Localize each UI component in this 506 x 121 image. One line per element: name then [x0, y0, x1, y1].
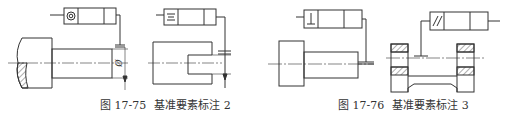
tolerance-frame [430, 12, 488, 30]
fig-17-76-shaft [268, 10, 374, 86]
fig-17-75-block [148, 9, 231, 88]
figure-title: 基准要素标注 2 [154, 99, 231, 112]
concentricity-icon [67, 12, 75, 20]
caption-fig-17-75: 图 17-75基准要素标注 2 [100, 96, 239, 112]
perpendicularity-icon [307, 13, 315, 24]
symmetry-icon [167, 14, 175, 20]
caption-fig-17-76: 图 17-76基准要素标注 3 [338, 96, 477, 112]
figure-number: 图 17-76 [338, 99, 384, 112]
fig-17-75-shaft [8, 8, 128, 90]
parallelism-icon [433, 16, 442, 26]
tolerance-frame [304, 10, 362, 28]
fig-17-76-bushing [386, 12, 500, 92]
figure-title: 基准要素标注 3 [392, 99, 469, 112]
diameter-label: Ø [114, 59, 124, 66]
figure-number: 图 17-75 [100, 99, 146, 112]
tolerance-frame [64, 8, 116, 24]
